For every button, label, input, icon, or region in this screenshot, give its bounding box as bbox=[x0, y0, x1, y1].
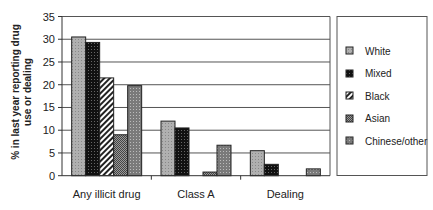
legend-swatch bbox=[345, 114, 355, 124]
bar-asian-any-illicit-drug bbox=[114, 135, 128, 176]
y-tick-label: 0 bbox=[49, 170, 55, 182]
legend-label: Black bbox=[365, 91, 389, 102]
legend-label: Chinese/other bbox=[365, 136, 427, 147]
bar-white-dealing bbox=[250, 151, 264, 176]
bar-mixed-dealing bbox=[264, 164, 278, 175]
bar-chart: 05101520253035Any illicit drugClass ADea… bbox=[0, 0, 433, 210]
legend-swatch bbox=[345, 46, 355, 56]
legend-item-white: White bbox=[345, 40, 427, 63]
legend-label: White bbox=[365, 46, 391, 57]
legend-swatch bbox=[345, 69, 355, 79]
x-tick-label: Any illicit drug bbox=[73, 188, 141, 200]
legend-label: Mixed bbox=[365, 68, 392, 79]
x-tick-label: Dealing bbox=[267, 188, 304, 200]
y-tick-label: 25 bbox=[43, 56, 55, 68]
x-tick-label: Class A bbox=[177, 188, 215, 200]
bar-asian-class-a bbox=[203, 172, 217, 176]
y-tick-label: 5 bbox=[49, 147, 55, 159]
legend-item-mixed: Mixed bbox=[345, 63, 427, 86]
y-tick-label: 30 bbox=[43, 33, 55, 45]
legend-item-black: Black bbox=[345, 85, 427, 108]
legend-swatch bbox=[345, 91, 355, 101]
bar-chinese-other-any-illicit-drug bbox=[128, 86, 142, 176]
bar-black-any-illicit-drug bbox=[100, 78, 114, 176]
legend-swatch bbox=[345, 136, 355, 146]
y-axis-label-line2: use or dealing bbox=[22, 12, 34, 172]
y-axis-label-line1: % in last year reporting drug bbox=[10, 12, 22, 172]
legend-item-asian: Asian bbox=[345, 108, 427, 131]
y-axis-label: % in last year reporting drug use or dea… bbox=[10, 12, 34, 172]
legend: White Mixed Black Asian Chinese/other bbox=[345, 40, 427, 153]
bar-chinese-other-dealing bbox=[306, 169, 320, 176]
legend-label: Asian bbox=[365, 113, 390, 124]
bar-white-class-a bbox=[161, 121, 175, 176]
y-tick-label: 35 bbox=[43, 11, 55, 23]
y-tick-label: 15 bbox=[43, 101, 55, 113]
bar-white-any-illicit-drug bbox=[72, 37, 86, 176]
y-tick-label: 10 bbox=[43, 124, 55, 136]
legend-item-chinese-other: Chinese/other bbox=[345, 130, 427, 153]
bar-mixed-any-illicit-drug bbox=[86, 42, 100, 175]
y-tick-label: 20 bbox=[43, 79, 55, 91]
bar-mixed-class-a bbox=[175, 128, 189, 176]
bar-chinese-other-class-a bbox=[217, 145, 231, 175]
